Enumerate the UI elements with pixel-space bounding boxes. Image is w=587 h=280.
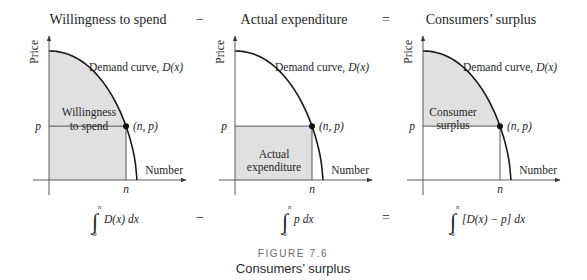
- integrand: [D(x) − p] dx: [462, 213, 526, 226]
- panel-1: Willingness to spendPriceNumberpn(n, p)D…: [28, 12, 186, 238]
- integral-lower-limit: 0: [283, 230, 287, 238]
- integral-formula: ∫n0p dx: [280, 203, 314, 238]
- demand-curve-label-func: D(x): [347, 61, 369, 74]
- integral-lower-limit: 0: [93, 230, 97, 238]
- integral-formula: ∫n0[D(x) − p] dx: [448, 203, 526, 238]
- p-tick-label: p: [34, 120, 41, 133]
- x-axis-label: Number: [145, 164, 183, 176]
- integral-upper-limit: n: [98, 203, 102, 211]
- integral-formula: ∫n0D(x) dx: [90, 203, 140, 238]
- demand-curve-label-text: Demand curve,: [463, 61, 536, 74]
- equals-operator-formula: =: [382, 210, 390, 225]
- integrand: p dx: [293, 213, 314, 226]
- panel-3: Consumers’ surplusPriceNumberpn(n, p)Dem…: [402, 12, 560, 238]
- x-axis-label: Number: [331, 164, 369, 176]
- region-label-line-2: expenditure: [247, 161, 301, 174]
- region-label-line-2: to spend: [70, 120, 109, 133]
- y-axis-label: Price: [214, 40, 226, 64]
- equals-operator-title: =: [382, 12, 390, 27]
- panel-title: Willingness to spend: [50, 12, 167, 27]
- minus-operator-title: −: [196, 12, 204, 27]
- demand-curve-label: Demand curve, D(x): [89, 61, 183, 74]
- equilibrium-point: [497, 123, 503, 129]
- panel-2: Actual expenditurePriceNumberpn(n, p)Dem…: [214, 12, 372, 238]
- figure-caption: Consumers’ surplus: [236, 261, 351, 276]
- integral-upper-limit: n: [288, 203, 292, 211]
- region-label-line-1: Consumer: [429, 106, 476, 118]
- n-tick-label: n: [309, 183, 315, 195]
- demand-curve-label: Demand curve, D(x): [463, 61, 557, 74]
- n-tick-label: n: [497, 183, 503, 195]
- demand-curve-label-func: D(x): [535, 61, 557, 74]
- point-label: (n, p): [507, 120, 532, 133]
- x-axis-label: Number: [519, 164, 557, 176]
- equilibrium-point: [123, 123, 129, 129]
- p-tick-label: p: [220, 120, 227, 133]
- p-tick-label: p: [408, 120, 415, 133]
- integral-lower-limit: 0: [451, 230, 455, 238]
- consumers-surplus-figure: − = − = Willingness to spendPriceNumberp…: [0, 0, 587, 280]
- demand-curve-label-func: D(x): [161, 61, 183, 74]
- panel-title: Actual expenditure: [241, 12, 348, 27]
- demand-curve-label: Demand curve, D(x): [275, 61, 369, 74]
- point-label: (n, p): [319, 120, 344, 133]
- integral-upper-limit: n: [456, 203, 460, 211]
- figure-number: FIGURE 7.6: [258, 248, 328, 259]
- demand-curve-label-text: Demand curve,: [275, 61, 348, 74]
- demand-curve-label-text: Demand curve,: [89, 61, 162, 74]
- region-label-line-1: Actual: [259, 148, 290, 160]
- minus-operator-formula: −: [196, 210, 204, 225]
- equilibrium-point: [309, 123, 315, 129]
- panel-title: Consumers’ surplus: [426, 12, 537, 27]
- point-label: (n, p): [133, 120, 158, 133]
- region-label-line-2: surplus: [436, 119, 470, 132]
- y-axis-label: Price: [28, 40, 40, 64]
- integrand: D(x) dx: [103, 213, 140, 226]
- y-axis-label: Price: [402, 40, 414, 64]
- n-tick-label: n: [123, 183, 129, 195]
- region-label-line-1: Willingness: [62, 106, 117, 119]
